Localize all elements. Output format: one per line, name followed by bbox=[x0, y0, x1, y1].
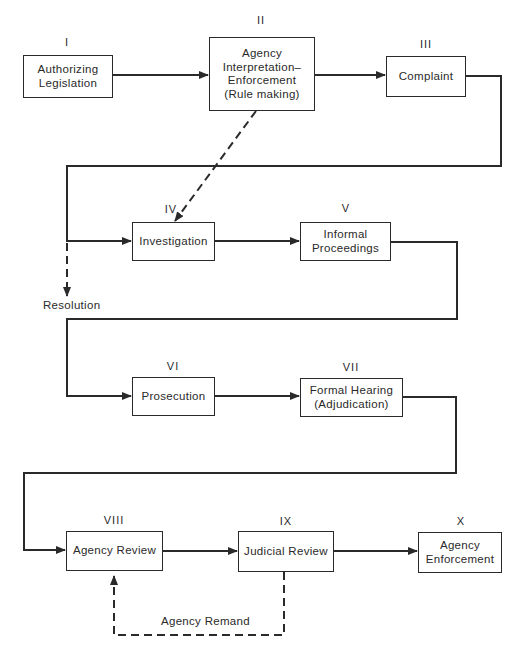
numeral-IX: IX bbox=[280, 515, 292, 527]
node-line: Prosecution bbox=[141, 390, 205, 404]
node-informal-proceedings: Informal Proceedings bbox=[300, 222, 391, 261]
node-formal-hearing: Formal Hearing (Adjudication) bbox=[300, 378, 403, 417]
node-line: Judicial Review bbox=[244, 545, 328, 559]
node-line: (Adjudication) bbox=[314, 398, 389, 412]
node-line: Complaint bbox=[399, 70, 453, 84]
node-line: Legislation bbox=[39, 77, 97, 91]
numeral-I: I bbox=[65, 36, 69, 48]
node-line: Proceedings bbox=[312, 242, 379, 256]
node-authorizing-legislation: Authorizing Legislation bbox=[23, 55, 113, 98]
numeral-VI: VI bbox=[167, 360, 179, 372]
node-line: Formal Hearing bbox=[310, 384, 393, 398]
node-agency-review: Agency Review bbox=[66, 531, 163, 571]
node-line: Informal bbox=[324, 228, 368, 242]
numeral-VII: VII bbox=[343, 361, 359, 373]
numeral-II: II bbox=[257, 14, 265, 26]
edge-V-VI bbox=[67, 242, 457, 396]
label-resolution: Resolution bbox=[43, 299, 100, 311]
node-complaint: Complaint bbox=[386, 56, 466, 97]
node-agency-interpretation-enforcement: Agency Interpretation– Enforcement (Rule… bbox=[209, 37, 315, 111]
node-prosecution: Prosecution bbox=[132, 377, 215, 416]
edge-VII-VIII bbox=[24, 397, 456, 550]
node-line: Agency bbox=[242, 47, 282, 61]
node-line: Agency Review bbox=[73, 544, 156, 558]
label-agency-remand: Agency Remand bbox=[161, 615, 250, 627]
node-line: Enforcement bbox=[228, 74, 297, 88]
node-line: Agency bbox=[440, 539, 480, 553]
numeral-III: III bbox=[420, 38, 432, 50]
numeral-X: X bbox=[457, 515, 465, 527]
numeral-V: V bbox=[342, 202, 350, 214]
numeral-IV: IV bbox=[165, 203, 177, 215]
node-investigation: Investigation bbox=[132, 222, 215, 261]
numeral-VIII: VIII bbox=[104, 514, 125, 526]
node-line: Authorizing bbox=[38, 63, 99, 77]
node-line: (Rule making) bbox=[224, 88, 299, 102]
node-agency-enforcement: Agency Enforcement bbox=[418, 532, 502, 573]
node-judicial-review: Judicial Review bbox=[238, 531, 334, 572]
node-line: Enforcement bbox=[426, 553, 495, 567]
node-line: Investigation bbox=[139, 235, 207, 249]
node-line: Interpretation– bbox=[223, 61, 302, 75]
